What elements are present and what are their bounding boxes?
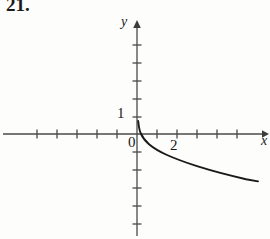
x-axis-label: x xyxy=(261,133,267,149)
origin-label: 0 xyxy=(128,134,136,151)
x-tick-label-2: 2 xyxy=(170,137,178,154)
y-tick-label-1: 1 xyxy=(117,105,125,122)
y-axis-label: y xyxy=(121,14,127,30)
y-axis-arrow-icon xyxy=(133,20,141,28)
curve-negative-log xyxy=(138,121,258,181)
graph-figure xyxy=(0,0,270,239)
